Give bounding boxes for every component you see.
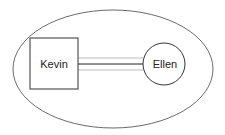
edge-kevin-ellen: [78, 58, 143, 70]
node-kevin: Kevin: [30, 38, 78, 89]
node-label-ellen: Ellen: [153, 58, 177, 70]
relationship-diagram: Kevin Ellen: [0, 0, 225, 135]
node-label-kevin: Kevin: [40, 58, 68, 70]
node-ellen: Ellen: [143, 43, 185, 85]
